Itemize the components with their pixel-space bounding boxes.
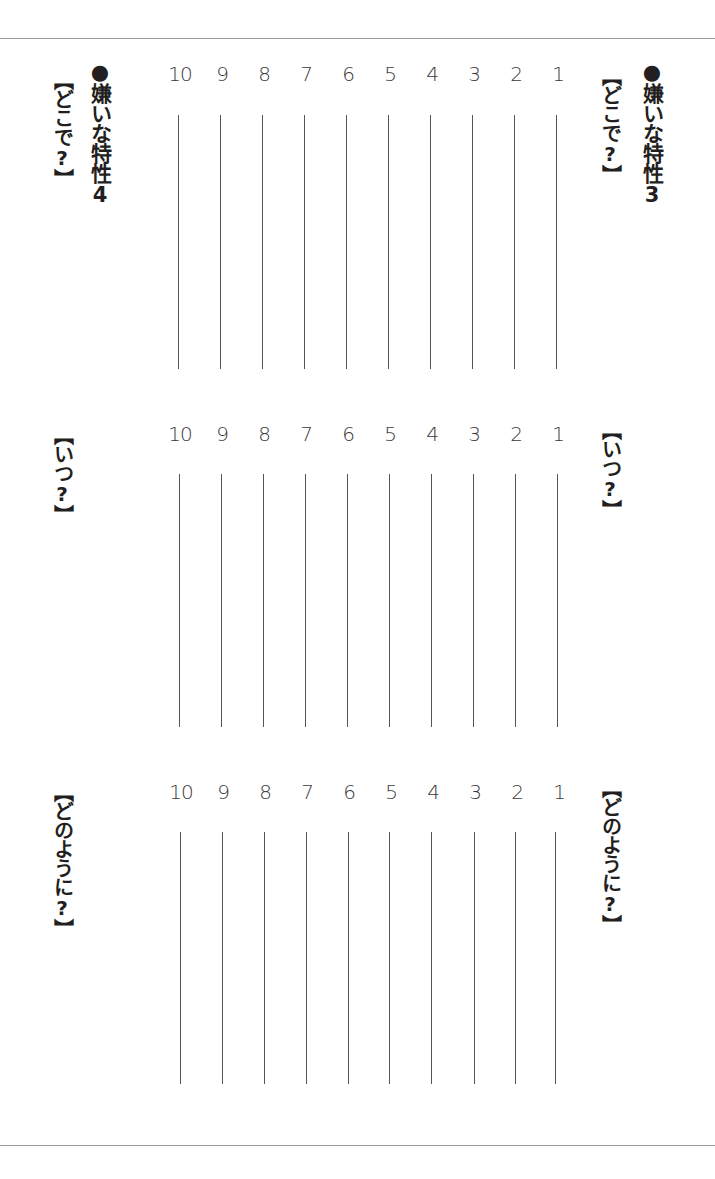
write-line[interactable] bbox=[305, 474, 306, 727]
write-line[interactable] bbox=[515, 832, 516, 1084]
scale-number: 3 bbox=[460, 780, 490, 804]
scale-number: 5 bbox=[375, 422, 405, 446]
scale-number: 5 bbox=[375, 62, 405, 86]
scale-number: 2 bbox=[501, 422, 531, 446]
scale-number: 7 bbox=[291, 422, 321, 446]
write-line[interactable] bbox=[514, 115, 515, 369]
write-line[interactable] bbox=[221, 474, 222, 727]
write-line[interactable] bbox=[304, 115, 305, 369]
write-line[interactable] bbox=[389, 474, 390, 727]
write-line[interactable] bbox=[557, 474, 558, 727]
write-line[interactable] bbox=[556, 115, 557, 369]
write-line[interactable] bbox=[263, 474, 264, 727]
write-line[interactable] bbox=[347, 474, 348, 727]
write-line[interactable] bbox=[431, 832, 432, 1084]
scale-number: 5 bbox=[376, 780, 406, 804]
scale-number: 3 bbox=[459, 62, 489, 86]
write-line[interactable] bbox=[348, 832, 349, 1084]
scale-number: 8 bbox=[249, 62, 279, 86]
write-line[interactable] bbox=[431, 474, 432, 727]
scale-number: 9 bbox=[208, 780, 238, 804]
write-line[interactable] bbox=[515, 474, 516, 727]
scale-number: 4 bbox=[417, 422, 447, 446]
write-line[interactable] bbox=[306, 832, 307, 1084]
bottom-rule bbox=[0, 1145, 715, 1146]
write-line[interactable] bbox=[388, 115, 389, 369]
write-line[interactable] bbox=[430, 115, 431, 369]
write-line[interactable] bbox=[474, 832, 475, 1084]
write-line[interactable] bbox=[555, 832, 556, 1084]
scale-number: 1 bbox=[544, 780, 574, 804]
write-line[interactable] bbox=[220, 115, 221, 369]
scale-number: 8 bbox=[249, 422, 279, 446]
scale-number: 9 bbox=[207, 422, 237, 446]
scale-number: 9 bbox=[207, 62, 237, 86]
scale-numbers-when: 10 9 8 7 6 5 4 3 2 1 bbox=[0, 422, 715, 452]
write-line[interactable] bbox=[264, 832, 265, 1084]
top-rule bbox=[0, 38, 715, 39]
write-line[interactable] bbox=[389, 832, 390, 1084]
scale-number: 10 bbox=[165, 62, 195, 86]
write-line[interactable] bbox=[178, 115, 179, 369]
scale-number: 6 bbox=[334, 780, 364, 804]
scale-number: 3 bbox=[459, 422, 489, 446]
scale-number: 2 bbox=[501, 62, 531, 86]
scale-number: 10 bbox=[166, 780, 196, 804]
write-line[interactable] bbox=[262, 115, 263, 369]
write-line[interactable] bbox=[472, 115, 473, 369]
scale-number: 7 bbox=[291, 62, 321, 86]
write-line[interactable] bbox=[179, 474, 180, 727]
write-line[interactable] bbox=[180, 832, 181, 1084]
scale-numbers-how: 10 9 8 7 6 5 4 3 2 1 bbox=[0, 780, 715, 810]
scale-number: 1 bbox=[543, 422, 573, 446]
write-line[interactable] bbox=[346, 115, 347, 369]
scale-number: 10 bbox=[165, 422, 195, 446]
scale-number: 8 bbox=[250, 780, 280, 804]
write-line[interactable] bbox=[222, 832, 223, 1084]
scale-number: 6 bbox=[333, 62, 363, 86]
scale-number: 4 bbox=[417, 62, 447, 86]
scale-number: 1 bbox=[543, 62, 573, 86]
scale-number: 7 bbox=[292, 780, 322, 804]
scale-number: 6 bbox=[333, 422, 363, 446]
scale-numbers-where: 10 9 8 7 6 5 4 3 2 1 bbox=[0, 62, 715, 92]
scale-number: 4 bbox=[418, 780, 448, 804]
scale-number: 2 bbox=[502, 780, 532, 804]
write-line[interactable] bbox=[473, 474, 474, 727]
